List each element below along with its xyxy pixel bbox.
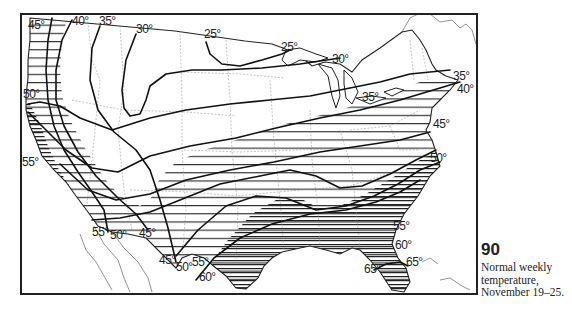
isotherm-label: 35°: [99, 14, 116, 28]
isotherm-map-figure: 45° 40° 35° 30° 25° 25° 30° 35° 35° 40° …: [0, 0, 572, 317]
isotherm-label: 35°: [362, 90, 379, 104]
map-body: 45° 40° 35° 30° 25° 25° 30° 35° 35° 40° …: [21, 14, 477, 294]
isotherm-label: 50°: [110, 228, 127, 242]
isotherm-label: 40°: [457, 82, 474, 96]
isotherm-label: 55°: [92, 225, 109, 239]
isotherm-label: 40°: [72, 14, 89, 28]
isotherm-label: 45°: [28, 18, 45, 32]
figure-number: 90: [481, 241, 572, 259]
isotherm-label: 50°: [23, 87, 40, 101]
isotherm-label: 45°: [139, 226, 156, 240]
isotherm-label: 25°: [281, 40, 298, 54]
isotherm-label: 65°: [406, 255, 423, 269]
isotherm-label: 55°: [22, 155, 39, 169]
isotherm-label: 65°: [364, 262, 381, 276]
isotherm-label: 35°: [453, 69, 470, 83]
isotherm-label: 60°: [199, 270, 216, 284]
figure-caption: 90 Normal weekly temperature, November 1…: [481, 241, 572, 299]
isotherm-label: 30°: [136, 22, 153, 36]
isotherm-label: 45°: [159, 253, 176, 267]
temperature-zones: [21, 14, 477, 294]
figure-caption-text: Normal weekly temperature, November 19–2…: [481, 261, 572, 299]
isotherm-label: 55°: [192, 255, 209, 269]
isotherm-label: 25°: [204, 27, 221, 41]
isotherm-label: 45°: [433, 117, 450, 131]
isotherm-label: 30°: [332, 52, 349, 66]
isotherm-label: 50°: [176, 260, 193, 274]
isotherm-label: 50°: [430, 151, 447, 165]
isotherm-label: 55°: [393, 219, 410, 233]
isotherm-label: 60°: [395, 238, 412, 252]
